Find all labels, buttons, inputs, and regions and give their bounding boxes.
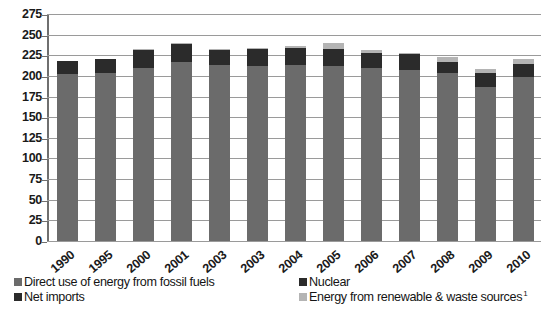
x-tick-label: 2001 <box>162 248 191 276</box>
bar-segment-fossil <box>171 62 192 241</box>
bar-group <box>95 59 116 241</box>
fossil-swatch-icon <box>14 278 22 286</box>
y-tick-label: 100 <box>0 151 42 165</box>
chart-legend: Direct use of energy from fossil fuels N… <box>14 276 544 310</box>
plot-area <box>47 14 541 241</box>
y-tick-label: 50 <box>0 193 42 207</box>
bar-segment-fossil <box>475 87 496 241</box>
bar-segment-nuclear <box>399 54 420 70</box>
bar-group <box>399 53 420 241</box>
legend-item-net-imports: Net imports <box>14 291 85 304</box>
x-tick-label: 2005 <box>314 248 343 276</box>
x-tick-label: 2004 <box>276 248 305 276</box>
bar-group <box>323 43 344 241</box>
x-tick-label: 2008 <box>428 248 457 276</box>
x-tick-label: 2007 <box>390 248 419 276</box>
bar-segment-fossil <box>133 68 154 241</box>
y-tick-label: 150 <box>0 110 42 124</box>
bar-group <box>475 69 496 241</box>
renewable-swatch-icon <box>299 293 307 301</box>
y-tick-label: 275 <box>0 7 42 21</box>
bar-segment-fossil <box>323 66 344 241</box>
bar-segment-renewable <box>247 48 268 49</box>
x-tick-label: 2000 <box>124 248 153 276</box>
legend-label-nuclear: Nuclear <box>309 276 350 289</box>
x-tick-label: 1990 <box>48 248 77 276</box>
bar-segment-nuclear <box>437 62 458 74</box>
x-tick-label: 2003 <box>200 248 229 276</box>
net-imports-swatch-icon <box>14 293 22 301</box>
x-axis-labels: 1990199520002001200320032004200520062007… <box>0 243 552 277</box>
y-tick-label: 225 <box>0 48 42 62</box>
bar-segment-fossil <box>361 68 382 241</box>
bar-group <box>133 49 154 241</box>
x-tick-label: 2006 <box>352 248 381 276</box>
legend-footnote-marker: 1 <box>523 287 527 300</box>
bar-segment-nuclear <box>247 49 268 66</box>
bar-segment-nuclear <box>209 50 230 66</box>
bar-group <box>513 59 534 241</box>
x-tick-label: 2009 <box>466 248 495 276</box>
legend-item-nuclear: Nuclear <box>299 276 350 289</box>
bar-segment-renewable <box>513 59 534 64</box>
y-tick-label: 175 <box>0 90 42 104</box>
bar-segment-nuclear <box>133 50 154 69</box>
bar-segment-fossil <box>285 65 306 241</box>
bar-segment-fossil <box>247 66 268 241</box>
bar-segment-renewable <box>133 49 154 50</box>
bar-segment-renewable <box>171 43 192 44</box>
bar-segment-fossil <box>437 73 458 241</box>
y-tick-label: 250 <box>0 28 42 42</box>
bar-segment-fossil <box>57 74 78 241</box>
bar-segment-renewable <box>323 43 344 49</box>
bar-segment-renewable <box>285 46 306 48</box>
bar-group <box>285 46 306 241</box>
bar-segment-renewable <box>399 53 420 55</box>
gridline <box>47 241 541 242</box>
y-tick-label: 25 <box>0 213 42 227</box>
bar-group <box>171 43 192 241</box>
bar-group <box>437 57 458 241</box>
bar-segment-renewable <box>209 49 230 50</box>
bar-group <box>209 49 230 241</box>
legend-label-renewable: Energy from renewable & waste sources <box>309 291 522 304</box>
x-tick-label: 2010 <box>504 248 533 276</box>
bar-group <box>57 61 78 241</box>
bar-segment-nuclear <box>95 59 116 74</box>
bar-segment-fossil <box>399 70 420 241</box>
bar-segment-nuclear <box>57 61 78 74</box>
y-tick-label: 75 <box>0 172 42 186</box>
x-tick-label: 2003 <box>238 248 267 276</box>
stacked-bar-chart: 0255075100125150175200225250275 19901995… <box>0 0 552 318</box>
x-tick-label: 1995 <box>86 248 115 276</box>
bar-segment-fossil <box>513 77 534 241</box>
bar-group <box>247 48 268 241</box>
bar-group <box>361 50 382 241</box>
y-axis-labels: 0255075100125150175200225250275 <box>0 14 44 241</box>
y-tick-label: 200 <box>0 69 42 83</box>
bar-segment-renewable <box>475 69 496 73</box>
bar-segment-renewable <box>361 50 382 52</box>
y-tick-label: 125 <box>0 131 42 145</box>
bar-segment-nuclear <box>475 73 496 87</box>
bar-segment-fossil <box>95 73 116 241</box>
bar-segment-renewable <box>437 57 458 62</box>
bar-segment-nuclear <box>323 49 344 66</box>
bar-segment-nuclear <box>361 53 382 69</box>
legend-label-net-imports: Net imports <box>24 291 85 304</box>
bar-segment-nuclear <box>171 44 192 62</box>
bar-segment-nuclear <box>285 48 306 65</box>
bar-segment-nuclear <box>513 64 534 76</box>
nuclear-swatch-icon <box>299 278 307 286</box>
bar-series-container <box>47 14 541 241</box>
bar-segment-fossil <box>209 65 230 241</box>
legend-item-renewable: Energy from renewable & waste sources1 <box>299 291 526 304</box>
legend-label-fossil: Direct use of energy from fossil fuels <box>24 276 214 289</box>
legend-item-fossil: Direct use of energy from fossil fuels <box>14 276 214 289</box>
